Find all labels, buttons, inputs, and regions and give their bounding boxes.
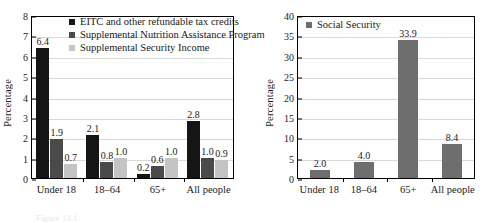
x-tick-mark (387, 178, 388, 182)
y-tick-label: 15 (284, 114, 298, 124)
y-tick-label: 1 (23, 155, 32, 165)
y-tick-label: 40 (284, 12, 298, 22)
right-y-axis-title: Percentage (264, 58, 278, 148)
x-tick-label: 65+ (133, 184, 184, 195)
left-legend: EITC and other refundable tax creditsSup… (69, 17, 265, 56)
bar[interactable]: 0.6 (151, 166, 164, 178)
bar-value-label: 4.0 (358, 151, 371, 161)
bar[interactable]: 6.4 (36, 48, 49, 178)
bar[interactable]: 1.0 (114, 158, 127, 178)
bar[interactable]: 2.8 (187, 121, 200, 178)
legend-item[interactable]: EITC and other refundable tax credits (69, 17, 265, 28)
legend-swatch-icon (69, 45, 75, 51)
legend-item[interactable]: Social Security (306, 20, 381, 31)
x-tick-label: 65+ (386, 184, 431, 195)
bar[interactable]: 0.7 (64, 164, 77, 178)
bar[interactable]: 8.4 (442, 144, 462, 178)
y-tick-label: 8 (23, 12, 32, 22)
right-legend: Social Security (306, 20, 381, 33)
bar-value-label: 1.0 (115, 147, 128, 157)
bar[interactable]: 0.8 (100, 162, 113, 178)
legend-label: Social Security (317, 20, 381, 31)
bar-value-label: 8.4 (446, 133, 459, 143)
y-tick-label: 5 (289, 155, 298, 165)
bar[interactable]: 1.0 (201, 158, 214, 178)
x-tick-label: 18–64 (342, 184, 387, 195)
bar-value-label: 2.1 (87, 124, 100, 134)
y-tick-mark (298, 180, 302, 181)
bar-value-label: 1.0 (165, 147, 178, 157)
y-tick-label: 2 (23, 134, 32, 144)
bar-cluster: 2.0 (310, 17, 330, 178)
y-tick-label: 6 (23, 53, 32, 63)
bar-group: 33.9 (386, 17, 430, 178)
bar[interactable]: 33.9 (398, 40, 418, 178)
y-tick-label: 35 (284, 32, 298, 42)
bar-group: 4.0 (342, 17, 386, 178)
chart-right-panel: Percentage 2.04.033.98.4 051015202530354… (244, 0, 487, 223)
bar[interactable]: 0.9 (215, 160, 228, 178)
bar-value-label: 2.0 (314, 159, 327, 169)
right-x-axis-labels: Under 1818–6465+All people (297, 184, 475, 195)
legend-label: Supplemental Nutrition Assistance Progra… (80, 30, 265, 41)
right-plot-area: 2.04.033.98.4 0510152025303540 (297, 16, 475, 179)
chart-left-panel: Percentage 6.41.90.72.10.81.00.20.61.02.… (0, 0, 244, 223)
legend-label: EITC and other refundable tax credits (80, 17, 239, 28)
bar[interactable]: 4.0 (354, 162, 374, 178)
left-y-axis-title: Percentage (2, 58, 16, 148)
legend-label: Supplemental Security Income (80, 43, 209, 54)
bar[interactable]: 1.0 (165, 158, 178, 178)
bar[interactable]: 2.1 (86, 135, 99, 178)
y-tick-label: 4 (23, 94, 32, 104)
legend-swatch-icon (69, 19, 75, 25)
y-tick-label: 3 (23, 114, 32, 124)
legend-item[interactable]: Supplemental Security Income (69, 43, 265, 54)
bar-value-label: 0.8 (101, 151, 114, 161)
bar-value-label: 0.6 (151, 155, 164, 165)
bar-value-label: 2.8 (187, 110, 200, 120)
x-tick-label: Under 18 (297, 184, 342, 195)
bar[interactable]: 1.9 (50, 139, 63, 178)
bar-cluster: 33.9 (398, 17, 418, 178)
left-x-axis-labels: Under 1818–6465+All people (31, 184, 234, 195)
right-bar-groups: 2.04.033.98.4 (298, 17, 474, 178)
bar-group: 2.0 (298, 17, 342, 178)
y-tick-mark (32, 180, 36, 181)
y-tick-label: 7 (23, 32, 32, 42)
bar-value-label: 0.7 (64, 153, 77, 163)
x-tick-mark (134, 178, 135, 182)
figure-caption: Figure 13.1 (36, 213, 78, 223)
figure-page: Percentage 6.41.90.72.10.81.00.20.61.02.… (0, 0, 487, 223)
bar-value-label: 1.9 (50, 128, 63, 138)
bar-value-label: 1.0 (201, 147, 214, 157)
y-tick-label: 25 (284, 73, 298, 83)
bar-value-label: 6.4 (36, 37, 49, 47)
bar-cluster: 8.4 (442, 17, 462, 178)
legend-item[interactable]: Supplemental Nutrition Assistance Progra… (69, 30, 265, 41)
bar-value-label: 0.2 (137, 163, 150, 173)
y-tick-label: 10 (284, 134, 298, 144)
bar-cluster: 4.0 (354, 17, 374, 178)
x-tick-label: Under 18 (31, 184, 82, 195)
x-tick-label: All people (431, 184, 476, 195)
y-tick-label: 20 (284, 94, 298, 104)
legend-swatch-icon (69, 32, 75, 38)
bar[interactable]: 0.2 (137, 174, 150, 178)
bar[interactable]: 2.0 (310, 170, 330, 178)
bar-value-label: 33.9 (399, 29, 417, 39)
bar-value-label: 0.9 (215, 149, 228, 159)
x-tick-label: All people (183, 184, 234, 195)
y-tick-label: 5 (23, 73, 32, 83)
y-tick-label: 30 (284, 53, 298, 63)
x-tick-mark (432, 178, 433, 182)
bar-group: 8.4 (430, 17, 474, 178)
x-tick-mark (184, 178, 185, 182)
x-tick-mark (83, 178, 84, 182)
x-tick-label: 18–64 (82, 184, 133, 195)
x-tick-mark (343, 178, 344, 182)
legend-swatch-icon (306, 22, 312, 28)
